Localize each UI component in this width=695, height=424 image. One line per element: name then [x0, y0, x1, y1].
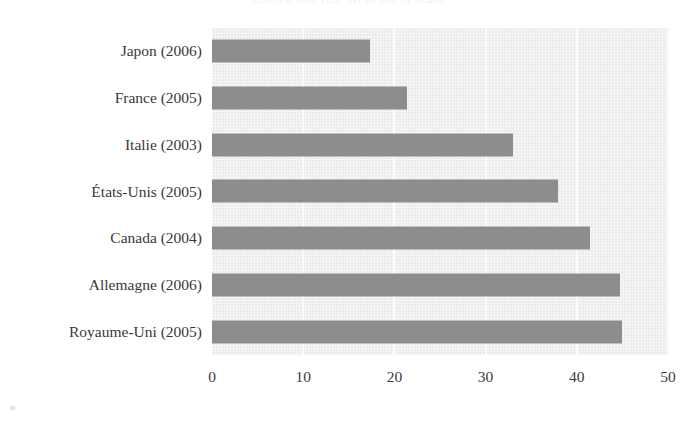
x-axis-tick-label: 0: [208, 369, 216, 385]
x-axis-tick-label: 50: [660, 369, 676, 385]
y-axis-label: Japon (2006): [2, 44, 202, 60]
bar: [212, 320, 622, 343]
bar-chart-figure: clipped title (cut off at top of scan) J…: [0, 0, 695, 424]
plot-area: [212, 28, 668, 355]
y-axis-category-labels: Japon (2006)France (2005)Italie (2003)Ét…: [0, 28, 202, 355]
bar-band: [212, 262, 668, 309]
x-axis-tick-label: 20: [387, 369, 403, 385]
bar: [212, 180, 558, 203]
bar-band: [212, 28, 668, 75]
bar-band: [212, 75, 668, 122]
y-axis-label: Royaume-Uni (2005): [2, 324, 202, 340]
y-axis-label: Italie (2003): [2, 137, 202, 153]
y-axis-label: France (2005): [2, 90, 202, 106]
x-axis-tick-label: 30: [478, 369, 494, 385]
x-axis-tick-labels: 01020304050: [212, 369, 668, 391]
clipped-title-remnant: clipped title (cut off at top of scan): [252, 0, 502, 3]
bar-band: [212, 121, 668, 168]
bar: [212, 87, 407, 110]
y-axis-label: États-Unis (2005): [2, 184, 202, 200]
bar: [212, 227, 590, 250]
x-axis-tick-label: 10: [295, 369, 311, 385]
x-axis-tick-label: 40: [569, 369, 585, 385]
scan-artifact-speck: [10, 406, 15, 410]
bar-band: [212, 215, 668, 262]
y-axis-label: Allemagne (2006): [2, 277, 202, 293]
bar-band: [212, 168, 668, 215]
y-axis-label: Canada (2004): [2, 230, 202, 246]
bar: [212, 273, 620, 296]
bar-band: [212, 308, 668, 355]
bar: [212, 133, 513, 156]
bar: [212, 40, 370, 63]
